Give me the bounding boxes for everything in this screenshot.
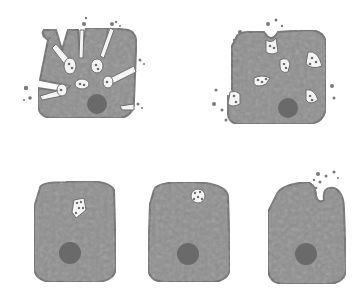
released-droplets (313, 171, 339, 190)
cytoplasm (34, 181, 116, 282)
cell-bottom-2 (148, 182, 230, 282)
cell-top-left (23, 17, 145, 118)
cell-top-right (212, 19, 336, 125)
cell-bottom-1 (34, 181, 116, 282)
nucleus (295, 243, 317, 265)
cytoplasm (148, 182, 230, 282)
cell-bottom-3 (268, 171, 346, 285)
nucleus (278, 98, 298, 118)
nucleus (177, 243, 199, 265)
cytoplasm (268, 182, 346, 284)
nucleus (87, 94, 107, 114)
cell-illustration (0, 0, 362, 297)
nucleus (59, 242, 81, 264)
